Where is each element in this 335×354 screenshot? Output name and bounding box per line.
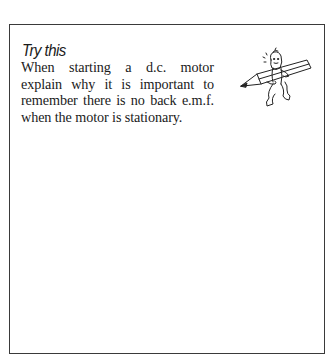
panel-body-text: When starting a d.c. motor explain why i…	[21, 59, 214, 125]
pencil-character-icon	[237, 46, 319, 114]
panel-title: Try this	[22, 41, 66, 61]
